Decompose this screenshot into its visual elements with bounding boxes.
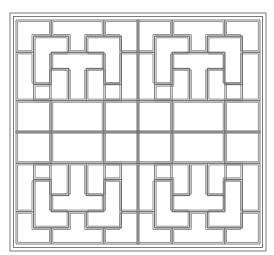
quadrants: [16, 20, 260, 244]
lattice-piece-inner-line: [226, 102, 258, 131]
lattice-piece: [104, 131, 139, 163]
lattice-piece-inner-line: [226, 133, 258, 162]
lattice-piece: [172, 131, 225, 163]
lattice-piece-inner-line: [174, 165, 224, 210]
lattice-piece: [51, 52, 104, 100]
lattice-piece-inner-line: [174, 54, 224, 99]
lattice-piece-inner-line: [105, 133, 137, 162]
lattice-piece: [51, 131, 104, 163]
lattice-piece-inner-line: [139, 102, 171, 131]
lattice-piece: [225, 101, 260, 133]
lattice-piece-inner-line: [174, 102, 224, 131]
lattice-piece: [51, 101, 104, 133]
lattice-piece: [16, 131, 51, 163]
lattice-piece-inner-line: [174, 133, 224, 162]
lattice-piece: [51, 163, 104, 211]
lattice-piece-inner-line: [53, 54, 103, 99]
lattice-piece: [137, 101, 172, 133]
lattice-piece: [172, 52, 225, 100]
lattice-pattern: [0, 0, 274, 255]
lattice-piece-inner-line: [18, 133, 50, 162]
lattice-piece: [225, 131, 260, 163]
lattice-piece: [16, 101, 51, 133]
lattice-piece-inner-line: [139, 133, 171, 162]
outer-frame: [10, 13, 266, 251]
lattice-piece: [172, 163, 225, 211]
lattice-piece: [104, 101, 139, 133]
lattice-piece: [172, 101, 225, 133]
lattice-piece-inner-line: [53, 102, 103, 131]
lattice-piece-inner-line: [53, 133, 103, 162]
lattice-piece-inner-line: [18, 102, 50, 131]
lattice-piece-inner-line: [53, 165, 103, 210]
lattice-piece-inner-line: [105, 102, 137, 131]
lattice-piece: [137, 131, 172, 163]
